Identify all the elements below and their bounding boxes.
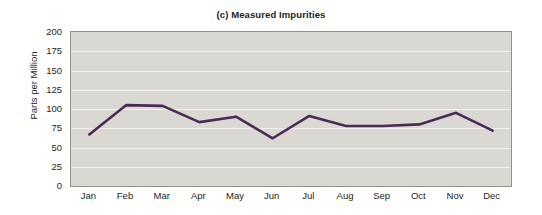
y-tick-label: 125 <box>46 83 62 94</box>
x-tick-label: Jul <box>302 190 314 201</box>
x-tick-label: Jan <box>81 190 96 201</box>
data-series-layer <box>71 32 511 186</box>
plot-area <box>70 31 512 187</box>
y-tick-label: 50 <box>51 141 62 152</box>
line-series-measured-impurities <box>89 105 492 138</box>
x-tick-label: Dec <box>483 190 500 201</box>
x-tick-label: Apr <box>191 190 206 201</box>
x-tick-label: May <box>226 190 244 201</box>
chart-figure: (c) Measured Impurities Parts per Millio… <box>0 0 542 215</box>
y-tick-label: 0 <box>57 180 62 191</box>
x-tick-label: Mar <box>153 190 169 201</box>
x-tick-label: Jun <box>264 190 279 201</box>
y-tick-label: 25 <box>51 160 62 171</box>
chart-title: (c) Measured Impurities <box>0 9 542 20</box>
y-tick-label: 200 <box>46 26 62 37</box>
x-axis-tick-labels: JanFebMarAprMayJunJulAugSepOctNovDec <box>70 190 510 206</box>
y-tick-label: 75 <box>51 122 62 133</box>
x-tick-label: Sep <box>373 190 390 201</box>
x-tick-label: Nov <box>447 190 464 201</box>
y-tick-label: 150 <box>46 64 62 75</box>
x-tick-label: Aug <box>337 190 354 201</box>
y-axis-tick-labels: 0255075100125150175200 <box>0 31 66 185</box>
y-tick-label: 175 <box>46 45 62 56</box>
y-tick-label: 100 <box>46 103 62 114</box>
x-tick-label: Feb <box>117 190 133 201</box>
x-tick-label: Oct <box>411 190 426 201</box>
